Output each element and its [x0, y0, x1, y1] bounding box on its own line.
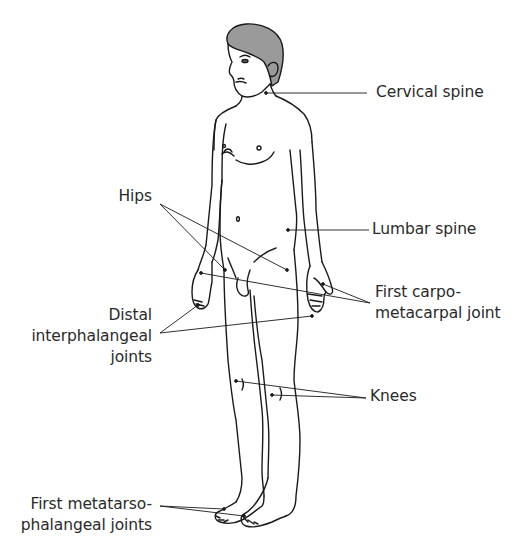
label-line: Distal — [20, 305, 152, 326]
label-line: joints — [20, 347, 152, 368]
label-line: Cervical spine — [376, 82, 484, 103]
label-line: First metatarso- — [0, 494, 152, 515]
eye — [242, 59, 248, 62]
label-cervical-spine: Cervical spine — [376, 82, 484, 103]
hair — [227, 24, 283, 86]
label-first-metatarsophalangeal-joints: First metatarso- phalangeal joints — [0, 494, 152, 536]
right-hand — [314, 262, 333, 294]
label-first-carpometacarpal-joint: First carpo- metacarpal joint — [375, 282, 501, 324]
label-knees: Knees — [370, 386, 417, 407]
label-line: metacarpal joint — [375, 303, 501, 324]
label-hips: Hips — [116, 186, 152, 207]
diagram-canvas: Cervical spine Hips Lumbar spine First c… — [0, 0, 524, 550]
label-line: interphalangeal — [20, 326, 152, 347]
label-line: First carpo- — [375, 282, 501, 303]
label-line: phalangeal joints — [0, 515, 152, 536]
label-distal-interphalangeal-joints: Distal interphalangeal joints — [20, 305, 152, 368]
label-line: Hips — [116, 186, 152, 207]
label-lumbar-spine: Lumbar spine — [372, 219, 476, 240]
label-line: Knees — [370, 386, 417, 407]
label-line: Lumbar spine — [372, 219, 476, 240]
